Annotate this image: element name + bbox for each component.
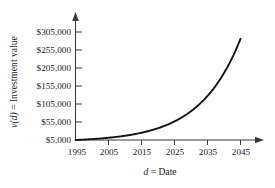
x-axis-title: d = Date [143,166,176,177]
y-tick-label-105000: $105,000 [37,99,72,109]
x-tick-label-2015: 2015 [133,147,152,157]
y-tick-label-5000: $5,000 [46,135,72,145]
investment-value-chart: $305,000 $255,000 $205,000 $155,000 $105… [0,0,275,188]
y-tick-label-155000: $155,000 [37,81,72,91]
x-tick-label-1995: 1995 [68,147,87,157]
y-tick-label-205000: $205,000 [37,63,72,73]
y-axis-title-rest: = Investment value [8,36,19,112]
y-axis-title-variable: v(d) [8,112,20,127]
y-axis-title: v(d) = Investment value [8,36,20,127]
x-tick-label-2025: 2025 [166,147,185,157]
x-tick-label-2045: 2045 [232,147,251,157]
x-tick-label-2035: 2035 [199,147,218,157]
x-tick-label-2005: 2005 [100,147,119,157]
y-tick-label-305000: $305,000 [37,27,72,37]
chart-canvas: $305,000 $255,000 $205,000 $155,000 $105… [0,0,275,188]
y-tick-label-255000: $255,000 [37,45,72,55]
y-tick-label-55000: $55,000 [41,117,71,127]
x-axis-title-rest: = Date [148,166,176,177]
